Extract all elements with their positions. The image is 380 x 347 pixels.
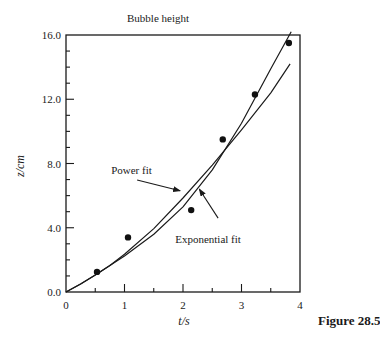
data-point bbox=[286, 40, 292, 46]
figure-label: Figure 28.5 bbox=[318, 313, 380, 328]
data-point bbox=[125, 234, 131, 240]
plot-frame bbox=[66, 35, 300, 292]
power-fit-curve bbox=[66, 64, 290, 292]
data-point bbox=[94, 269, 100, 275]
axis-ticks bbox=[66, 51, 271, 292]
y-tick-label: 0.0 bbox=[47, 286, 61, 298]
data-point bbox=[188, 207, 194, 213]
y-tick-label: 12.0 bbox=[42, 93, 62, 105]
y-tick-label: 16.0 bbox=[42, 29, 62, 41]
x-tick-label: 0 bbox=[63, 299, 69, 311]
power-fit-arrow bbox=[137, 180, 180, 191]
chart-title: Bubble height bbox=[127, 12, 189, 24]
exponential-fit-curve bbox=[66, 32, 291, 292]
axis-tick-labels: 012340.04.08.012.016.0 bbox=[42, 29, 304, 311]
exponential-fit-arrow bbox=[199, 189, 218, 218]
plot-border bbox=[66, 35, 300, 292]
x-tick-label: 1 bbox=[122, 299, 128, 311]
y-tick-label: 4.0 bbox=[47, 222, 61, 234]
power-fit-label: Power fit bbox=[111, 164, 152, 176]
annotations: Power fitExponential fit bbox=[111, 164, 241, 245]
exponential-fit-label: Exponential fit bbox=[175, 233, 241, 245]
x-tick-label: 3 bbox=[239, 299, 245, 311]
y-tick-label: 8.0 bbox=[47, 158, 61, 170]
bubble-height-chart: 012340.04.08.012.016.0 Power fitExponent… bbox=[0, 0, 380, 347]
y-axis-label: z/cm bbox=[13, 155, 27, 178]
x-tick-label: 2 bbox=[180, 299, 186, 311]
data-point bbox=[252, 91, 258, 97]
data-series bbox=[66, 32, 292, 292]
x-tick-label: 4 bbox=[297, 299, 303, 311]
data-point bbox=[220, 136, 226, 142]
x-axis-label: t/s bbox=[178, 314, 190, 328]
